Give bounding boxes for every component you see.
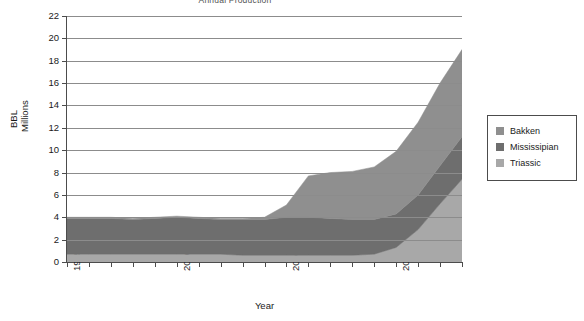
y-tick-label: 0 xyxy=(19,257,59,267)
y-tick-label: 18 xyxy=(19,56,59,66)
x-axis-title: Year xyxy=(67,300,462,311)
y-tick-label: 4 xyxy=(19,212,59,222)
gridline xyxy=(67,217,462,218)
gridline xyxy=(67,83,462,84)
gridline xyxy=(67,128,462,129)
y-axis-title-line-2: Millions xyxy=(19,106,30,132)
legend-item[interactable]: Bakken xyxy=(488,123,576,139)
gridline xyxy=(67,195,462,196)
y-axis-title-line-1: BBL xyxy=(8,106,19,132)
gridline xyxy=(67,16,462,17)
chart-title: Annual Production xyxy=(0,0,470,5)
legend-swatch-icon xyxy=(496,143,504,151)
legend-item[interactable]: Mississipian xyxy=(488,139,576,155)
y-tick-label: 6 xyxy=(19,190,59,200)
gridline xyxy=(67,105,462,106)
y-tick-label: 2 xyxy=(19,235,59,245)
legend-swatch-icon xyxy=(496,159,504,167)
area-series-layer xyxy=(67,16,462,262)
y-tick-label: 8 xyxy=(19,168,59,178)
plot-area xyxy=(67,16,462,262)
legend: BakkenMississipianTriassic xyxy=(487,115,577,181)
y-tick-label: 20 xyxy=(19,33,59,43)
legend-swatch-icon xyxy=(496,127,504,135)
gridline xyxy=(67,150,462,151)
legend-item-label: Triassic xyxy=(510,159,541,168)
legend-item-label: Mississipian xyxy=(510,143,559,152)
gridline xyxy=(67,173,462,174)
y-tick-label: 10 xyxy=(19,145,59,155)
legend-item[interactable]: Triassic xyxy=(488,155,576,171)
gridline xyxy=(67,61,462,62)
y-tick-label: 16 xyxy=(19,78,59,88)
stacked-area-chart: Annual Production 0246810121416182022 19… xyxy=(0,0,584,321)
y-axis-title: BBL Millions xyxy=(8,106,30,132)
y-tick-label: 22 xyxy=(19,11,59,21)
gridline xyxy=(67,38,462,39)
x-tick-mark xyxy=(462,262,463,267)
legend-item-label: Bakken xyxy=(510,127,540,136)
gridline xyxy=(67,240,462,241)
